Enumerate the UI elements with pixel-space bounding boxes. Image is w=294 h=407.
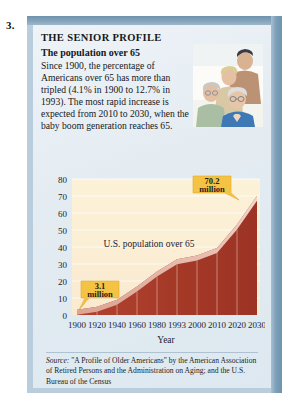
x-tick-1960: 1960 [128,320,147,330]
exercise-number: 3. [6,19,15,31]
y-tick-10: 10 [58,294,68,304]
end-callout-unit: million [199,184,225,194]
x-tick-1980: 1980 [148,320,167,330]
y-tick-30: 30 [58,260,68,270]
senior-family-photo [193,44,263,127]
y-tick-40: 40 [58,243,68,253]
series-label: U.S. population over 65 [103,239,194,249]
panel-right-band [271,16,282,393]
source-divider [46,352,258,353]
x-tick-1993: 1993 [168,320,187,330]
population-area-chart: 80 70 60 50 40 30 20 10 0 1900 1920 1940… [41,173,265,353]
source-text: "A Profile of Older Americans" by the Am… [46,356,256,386]
card-body-text: Since 1900, the percentage of Americans … [41,60,193,132]
x-axis-title: Year [157,335,175,345]
panel-top-band [27,16,282,25]
x-tick-2030: 2030 [248,320,265,330]
source-label: Source: [46,356,69,365]
start-callout-unit: million [87,289,113,299]
y-tick-50: 50 [58,226,68,236]
x-tick-2000: 2000 [188,320,207,330]
x-tick-1940: 1940 [108,320,127,330]
y-axis-tick-labels: 80 70 60 50 40 30 20 10 0 [58,175,68,321]
card-content-sheet: THE SENIOR PROFILE The population over 6… [33,25,271,388]
info-card-panel: THE SENIOR PROFILE The population over 6… [27,16,282,393]
header-block: THE SENIOR PROFILE The population over 6… [41,32,263,133]
card-headline: THE SENIOR PROFILE [41,32,263,44]
y-tick-70: 70 [58,192,68,202]
y-tick-20: 20 [58,277,68,287]
source-note: Source: "A Profile of Older Americans" b… [46,356,258,387]
x-tick-1920: 1920 [88,320,107,330]
x-tick-2020: 2020 [228,320,247,330]
y-tick-0: 0 [63,311,68,321]
x-tick-1900: 1900 [68,320,87,330]
y-tick-60: 60 [58,209,68,219]
x-tick-2010: 2010 [208,320,227,330]
x-axis-tick-labels: 1900 1920 1940 1960 1980 1993 2000 2010 … [68,320,265,330]
y-tick-80: 80 [58,175,68,185]
